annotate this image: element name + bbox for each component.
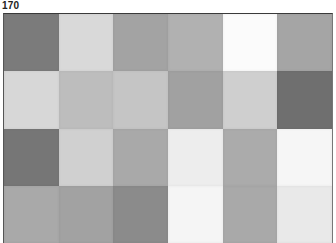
gray-patch-r4-c5 xyxy=(223,186,278,243)
gray-patch-r3-c6 xyxy=(277,129,332,186)
gray-patch-r1-c1 xyxy=(4,14,59,71)
gray-patch-r2-c5 xyxy=(223,71,278,128)
gray-patch-grid xyxy=(3,13,333,243)
gray-patch-r2-c6 xyxy=(277,71,332,128)
gray-patch-r2-c4 xyxy=(168,71,223,128)
gray-patch-r4-c6 xyxy=(277,186,332,243)
gray-patch-r1-c4 xyxy=(168,14,223,71)
gray-patch-r3-c3 xyxy=(113,129,168,186)
chart-number-label: 170 xyxy=(2,0,19,12)
gray-patch-r4-c3 xyxy=(113,186,168,243)
gray-patch-r1-c5 xyxy=(223,14,278,71)
gray-patch-r2-c1 xyxy=(4,71,59,128)
gray-patch-r3-c4 xyxy=(168,129,223,186)
gray-patch-r2-c2 xyxy=(59,71,114,128)
gray-patch-r2-c3 xyxy=(113,71,168,128)
gray-patch-r4-c4 xyxy=(168,186,223,243)
gray-patch-r3-c5 xyxy=(223,129,278,186)
gray-patch-r1-c6 xyxy=(277,14,332,71)
gray-patch-r4-c2 xyxy=(59,186,114,243)
gray-patch-r4-c1 xyxy=(4,186,59,243)
gray-patch-r3-c1 xyxy=(4,129,59,186)
gray-patch-r3-c2 xyxy=(59,129,114,186)
gray-patch-r1-c2 xyxy=(59,14,114,71)
gray-patch-r1-c3 xyxy=(113,14,168,71)
